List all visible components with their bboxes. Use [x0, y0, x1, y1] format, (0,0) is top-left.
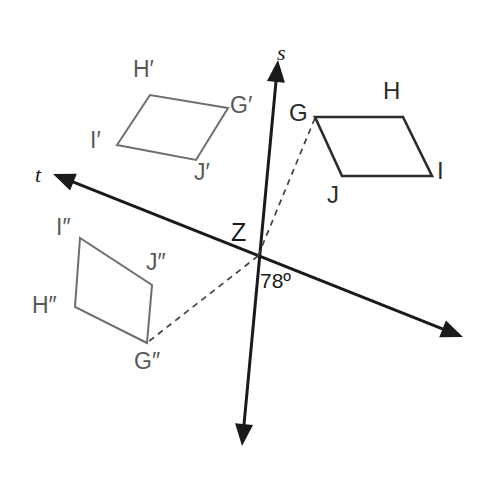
parallelograms-group [75, 95, 432, 343]
parallelogram-original [315, 117, 432, 176]
axis-arrow-t-end [439, 321, 463, 338]
center-point-label-z: Z [231, 220, 246, 245]
vertex-label-G: G [289, 101, 308, 125]
vertex-label-J: J [327, 183, 339, 207]
vertex-label-H: H [383, 79, 400, 103]
vertex-label-J-prime: J′ [194, 161, 210, 184]
vertex-label-I: I [437, 159, 444, 183]
vertex-label-I-prime: I′ [90, 129, 101, 152]
axis-arrow-s-end [235, 423, 253, 446]
parallelogram-image2 [75, 238, 152, 343]
vertex-label-H-prime: H′ [133, 58, 154, 81]
axis-label-s: s [277, 42, 286, 64]
vertex-label-H-double-prime: H″ [32, 294, 57, 317]
vertex-label-G-prime: G′ [230, 94, 252, 117]
vertex-label-I-double-prime: I″ [56, 216, 71, 239]
vertex-label-G-double-prime: G″ [134, 350, 160, 373]
angle-measure-label: 78º [260, 270, 291, 291]
axis-label-t: t [35, 164, 41, 186]
parallelogram-image1 [117, 95, 228, 160]
geometry-diagram: stGHIJG′H′I′J′G″H″I″J″Z78º [0, 0, 484, 481]
vertex-label-J-double-prime: J″ [146, 251, 166, 274]
axis-arrow-t-start [53, 174, 77, 191]
